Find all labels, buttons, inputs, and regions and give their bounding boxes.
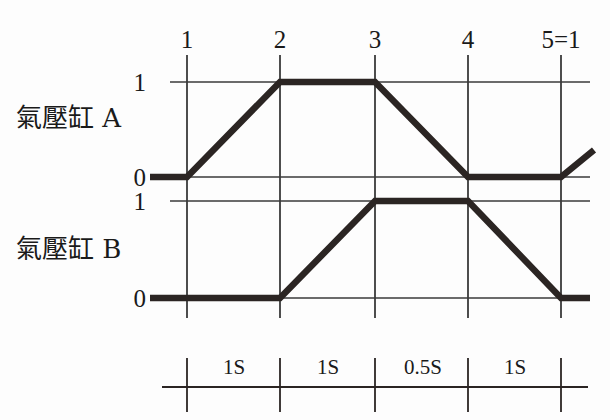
timescale-label-4: 1S bbox=[480, 357, 550, 378]
level-label-b-low: 0 bbox=[110, 286, 146, 311]
grid-vertical-lines bbox=[187, 55, 561, 318]
step-label-3: 3 bbox=[355, 27, 395, 52]
timing-diagram-figure: 1 2 3 4 5=1 1 0 1 0 氣壓缸 A 氣壓缸 B 1S 1S 0.… bbox=[0, 0, 610, 420]
timescale-label-3: 0.5S bbox=[386, 357, 460, 378]
step-label-1: 1 bbox=[167, 27, 207, 52]
signal-trace-cylinder-b bbox=[150, 201, 590, 298]
level-label-a-high: 1 bbox=[110, 70, 146, 95]
step-label-4: 4 bbox=[448, 27, 488, 52]
timescale-label-2: 1S bbox=[293, 357, 363, 378]
timescale-label-1: 1S bbox=[199, 357, 269, 378]
step-label-5: 5=1 bbox=[529, 27, 593, 52]
channel-name-cylinder-b: 氣壓缸 B bbox=[16, 236, 121, 262]
level-label-a-low: 0 bbox=[110, 165, 146, 190]
signal-trace-cylinder-a bbox=[150, 82, 594, 177]
level-label-b-high: 1 bbox=[110, 189, 146, 214]
channel-name-cylinder-a: 氣壓缸 A bbox=[16, 105, 121, 131]
step-label-2: 2 bbox=[260, 27, 300, 52]
